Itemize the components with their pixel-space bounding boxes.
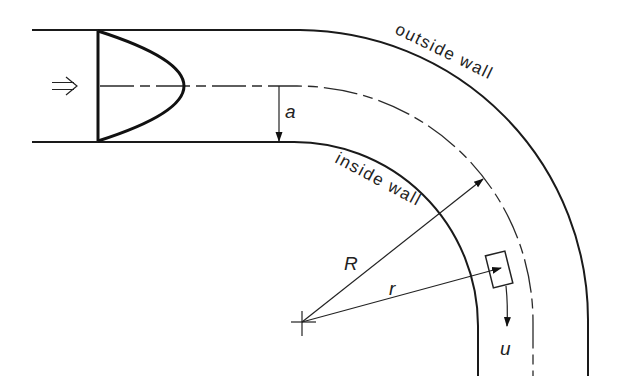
- center-of-curvature-icon: [291, 311, 316, 336]
- inside-wall-label: inside wall: [332, 149, 425, 210]
- radius-r-arrow: [302, 268, 501, 322]
- velocity-u-label: u: [500, 338, 511, 359]
- radius-R-label: R: [344, 253, 358, 274]
- outside-wall: [32, 30, 588, 376]
- radius-r-label: r: [389, 278, 396, 299]
- velocity-u-arrow: [506, 286, 507, 326]
- inside-wall: [32, 142, 478, 376]
- fluid-element: [485, 251, 512, 288]
- pipe-radius-label: a: [285, 101, 296, 122]
- centerline: [100, 86, 533, 376]
- inflow-arrow-icon: [52, 77, 77, 95]
- curved-pipe-diagram: a R r u outside wall inside wall: [0, 0, 620, 388]
- radius-R-arrow: [302, 179, 483, 322]
